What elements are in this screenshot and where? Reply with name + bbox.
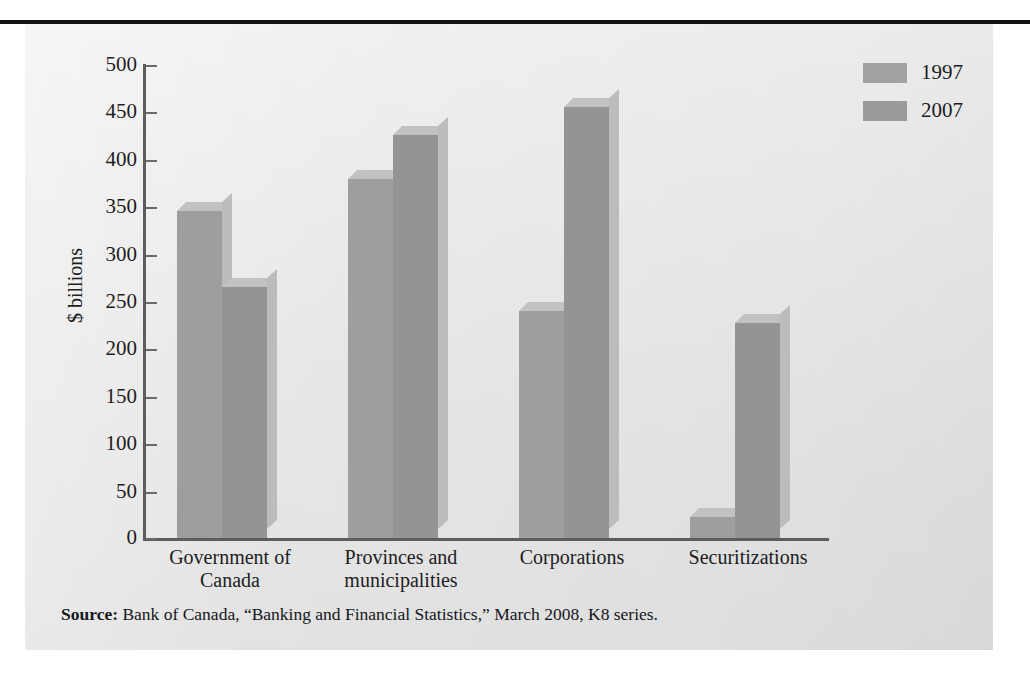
bar-1997-securitizations (690, 517, 735, 538)
category-line: municipalities (316, 569, 486, 592)
x-axis-line (143, 538, 829, 541)
bar-side-face (267, 269, 277, 529)
bar-1997-government-of-canada (177, 211, 222, 538)
bar-side-face (438, 117, 448, 529)
y-axis-tick (146, 397, 157, 399)
legend-label-2007: 2007 (921, 100, 963, 121)
y-axis-title: $ billions (64, 206, 87, 366)
y-axis-tick-label: 100 (65, 433, 137, 454)
y-axis-tick (146, 492, 157, 494)
y-axis-tick (146, 349, 157, 351)
x-axis-category-label-securitizations: Securitizations (658, 546, 838, 569)
y-axis-tick-label: 150 (65, 386, 137, 407)
y-axis-tick (146, 444, 157, 446)
y-axis-tick (146, 65, 157, 67)
legend-swatch-1997 (863, 63, 907, 83)
y-axis-tick (146, 302, 157, 304)
category-line: Government of (145, 546, 315, 569)
x-axis-category-label-corporations: Corporations (487, 546, 657, 569)
bar-side-face (780, 305, 790, 529)
y-axis-tick (146, 255, 157, 257)
x-axis-category-label-provinces-and-municipalities: Provinces and municipalities (316, 546, 486, 592)
source-text: Bank of Canada, “Banking and Financial S… (118, 604, 658, 624)
bar-1997-provinces-and-municipalities (348, 179, 393, 538)
category-line: Corporations (487, 546, 657, 569)
bar-2007-corporations (564, 107, 609, 538)
y-axis-tick (146, 207, 157, 209)
y-axis-tick-label: 500 (65, 54, 137, 75)
legend-item-2007: 2007 (863, 100, 963, 121)
y-axis-tick-label: 50 (65, 481, 137, 502)
category-line: Provinces and (316, 546, 486, 569)
y-axis-tick-label: 400 (65, 149, 137, 170)
y-axis-tick (146, 160, 157, 162)
legend: 1997 2007 (863, 62, 963, 138)
y-axis-tick (146, 112, 157, 114)
y-axis-tick-label: 450 (65, 101, 137, 122)
bar-chart-plot-area: 500 450 400 350 300 250 200 150 100 50 0 (25, 24, 993, 650)
source-label: Source: (61, 604, 118, 624)
category-line: Canada (145, 569, 315, 592)
category-line: Securitizations (658, 546, 838, 569)
bar-2007-government-of-canada (222, 287, 267, 538)
bar-1997-corporations (519, 311, 564, 538)
bar-2007-securitizations (735, 323, 780, 538)
bar-side-face (609, 89, 619, 529)
bar-2007-provinces-and-municipalities (393, 135, 438, 538)
legend-swatch-2007 (863, 101, 907, 121)
x-axis-category-label-government-of-canada: Government of Canada (145, 546, 315, 592)
figure-panel: 500 450 400 350 300 250 200 150 100 50 0 (25, 24, 993, 650)
y-axis-tick-label: 0 (65, 527, 137, 548)
source-line: Source: Bank of Canada, “Banking and Fin… (61, 604, 658, 625)
y-axis-tick (146, 538, 157, 540)
legend-label-1997: 1997 (921, 62, 963, 83)
legend-item-1997: 1997 (863, 62, 963, 83)
